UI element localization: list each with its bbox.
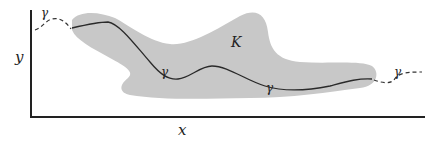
gamma-label-far-right: γ xyxy=(394,65,402,79)
gamma-label-mid: γ xyxy=(161,65,169,79)
x-axis-label: x xyxy=(178,121,187,139)
diagram-figure: y x K γ γ γ γ xyxy=(0,0,439,143)
y-axis-label: y xyxy=(14,48,24,66)
gamma-label-right: γ xyxy=(266,81,274,95)
region-k-label: K xyxy=(230,34,243,50)
curve-gamma-dashed-left xyxy=(35,19,71,30)
gamma-label-left: γ xyxy=(41,6,49,20)
